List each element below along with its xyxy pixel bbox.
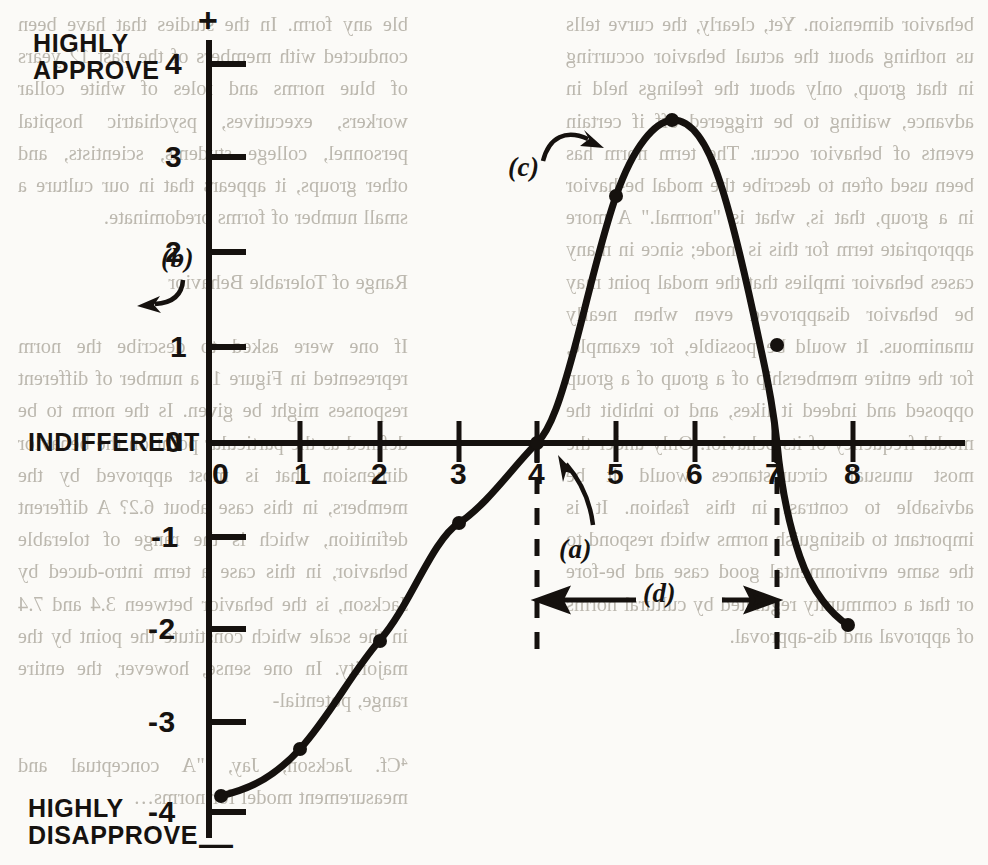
y-tick-label-3: 3 — [165, 142, 182, 172]
callout-c-arrow — [543, 135, 588, 161]
y-tick-label-4: 4 — [165, 49, 182, 79]
y-axis-minus-sign: — — [199, 833, 233, 853]
x-tick-label-0: 0 — [212, 459, 229, 489]
axis-label-highly-disapprove: HIGHLY DISAPPROVE — [28, 795, 198, 849]
x-tick-label-1: 1 — [294, 459, 311, 489]
x-tick-label-2: 2 — [371, 459, 388, 489]
x-tick-label-5: 5 — [607, 459, 624, 489]
axis-label-indifferent: INDIFFERENT — [28, 429, 200, 456]
y-tick-label-minus-2: -2 — [148, 614, 175, 644]
x-tick-label-8: 8 — [844, 459, 861, 489]
callout-b-arrow — [155, 280, 183, 304]
callout-label-b: (b) — [161, 243, 194, 274]
y-axis-plus-sign: + — [198, 10, 218, 30]
callout-label-c: (c) — [508, 152, 539, 183]
x-tick-label-6: 6 — [686, 459, 703, 489]
approval-curve-figure: + — 4 3 2 1 0 -1 -2 -3 -4 0 1 2 3 4 5 6 … — [0, 0, 988, 865]
callout-label-d: (d) — [643, 578, 676, 609]
callout-a-arrow — [566, 464, 593, 525]
y-axis-ticks — [209, 64, 246, 812]
callout-a-arrowhead — [558, 455, 576, 482]
y-tick-label-minus-1: -1 — [151, 522, 178, 552]
x-tick-label-7: 7 — [765, 459, 782, 489]
axis-label-highly-approve: HIGHLY APPROVE — [33, 30, 159, 84]
y-tick-label-1: 1 — [170, 332, 187, 362]
callout-label-a: (a) — [559, 534, 592, 565]
x-tick-label-4: 4 — [528, 459, 545, 489]
x-tick-label-3: 3 — [450, 459, 467, 489]
y-tick-label-minus-3: -3 — [148, 707, 175, 737]
